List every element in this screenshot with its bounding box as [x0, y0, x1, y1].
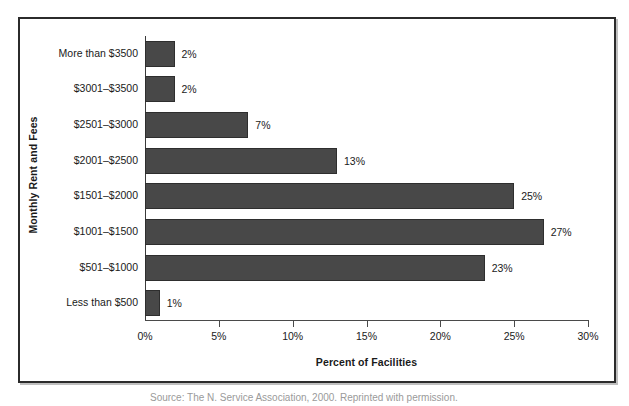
cropped-caption-text: Source: The N. Service Association, 2000…	[150, 393, 490, 403]
bar-value-label: 2%	[182, 83, 197, 95]
x-tick-mark	[514, 321, 515, 327]
y-axis-category-labels: More than $3500$3001–$3500$2501–$3000$20…	[8, 36, 138, 321]
bar-value-label: 7%	[255, 119, 270, 131]
bar-row: 7%	[145, 112, 588, 138]
bar	[145, 290, 160, 316]
bar-value-label: 23%	[492, 262, 513, 274]
x-tick-label: 15%	[356, 330, 377, 342]
bar-value-label: 2%	[182, 48, 197, 60]
x-tick-mark	[367, 321, 368, 327]
x-tick-label: 0%	[137, 330, 152, 342]
bar-row: 2%	[145, 41, 588, 67]
bar-value-label: 13%	[344, 155, 365, 167]
x-axis-title: Percent of Facilities	[145, 356, 588, 368]
x-tick-label: 25%	[504, 330, 525, 342]
x-tick-label: 30%	[577, 330, 598, 342]
x-tick-mark	[440, 321, 441, 327]
category-label: Less than $500	[10, 296, 138, 308]
x-tick-mark	[588, 321, 589, 327]
bar-row: 25%	[145, 183, 588, 209]
bar-row: 23%	[145, 255, 588, 281]
bar	[145, 76, 175, 102]
x-axis-ticks: 0%5%10%15%20%25%30%	[145, 321, 589, 351]
x-tick-mark	[219, 321, 220, 327]
category-label: $2001–$2500	[10, 154, 138, 166]
bar-value-label: 25%	[521, 190, 542, 202]
bar-value-label: 27%	[551, 226, 572, 238]
bar	[145, 112, 248, 138]
category-label: $1501–$2000	[10, 189, 138, 201]
bar	[145, 255, 485, 281]
bar	[145, 41, 175, 67]
bar-value-label: 1%	[167, 297, 182, 309]
bar-row: 13%	[145, 148, 588, 174]
category-label: $501–$1000	[10, 261, 138, 273]
category-label: More than $3500	[10, 47, 138, 59]
cropped-caption: Source: The N. Service Association, 2000…	[150, 393, 490, 406]
bar	[145, 219, 544, 245]
bar-row: 27%	[145, 219, 588, 245]
category-label: $2501–$3000	[10, 118, 138, 130]
plot-area: 2%2%7%13%25%27%23%1%	[145, 36, 588, 321]
category-label: $1001–$1500	[10, 225, 138, 237]
bar	[145, 148, 337, 174]
category-label: $3001–$3500	[10, 82, 138, 94]
x-tick-label: 5%	[211, 330, 226, 342]
x-tick-label: 20%	[430, 330, 451, 342]
bar	[145, 183, 514, 209]
x-tick-mark	[293, 321, 294, 327]
bar-row: 1%	[145, 290, 588, 316]
bar-row: 2%	[145, 76, 588, 102]
x-tick-label: 10%	[282, 330, 303, 342]
